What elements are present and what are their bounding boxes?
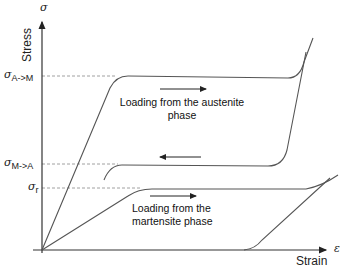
stress-strain-diagram xyxy=(0,0,351,274)
label-sigma-r: σr xyxy=(28,180,39,195)
x-axis-title: Strain xyxy=(296,254,327,268)
label-sigma-ma: σM->A xyxy=(4,156,33,171)
x-axis-symbol: ε xyxy=(334,242,340,255)
y-axis-symbol: σ xyxy=(40,1,48,14)
annotation-austenite: Loading from the austenite phase xyxy=(112,96,252,122)
label-sigma-am: σA->M xyxy=(4,68,33,83)
y-axis-title: Stress xyxy=(20,28,34,62)
annotation-martensite: Loading from the martensite phase xyxy=(132,202,222,228)
